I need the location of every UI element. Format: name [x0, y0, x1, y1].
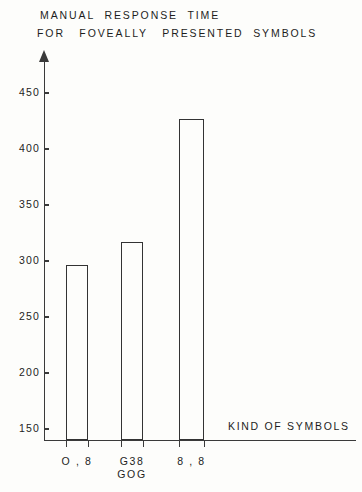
- x-axis-tick: [66, 441, 67, 447]
- y-axis-tick-label-text: 200: [0, 366, 40, 378]
- x-axis-tick: [121, 441, 122, 447]
- y-axis-tick-label: 250: [0, 310, 40, 322]
- x-axis-line: [44, 440, 356, 441]
- symbol-glyph-line: GOG: [92, 468, 172, 481]
- y-axis-tick-label: 450: [0, 86, 40, 98]
- y-axis-tick-label: 400: [0, 142, 40, 154]
- chart-title-line-1: MANUAL RESPONSE TIME: [40, 6, 220, 24]
- y-axis-tick-label: 350: [0, 198, 40, 210]
- bar: [66, 265, 88, 440]
- y-axis-tick: [45, 428, 49, 429]
- y-axis-tick-label: 200: [0, 366, 40, 378]
- response-time-bar-chart: MANUAL RESPONSE TIME FOR FOVEALLY PRESEN…: [0, 0, 362, 492]
- y-axis-tick: [45, 92, 49, 93]
- x-axis-title: KIND OF SYMBOLS: [228, 420, 350, 432]
- y-axis-tick-label-text: 450: [0, 86, 40, 98]
- y-axis-tick: [45, 148, 49, 149]
- y-axis-tick-label-text: 300: [0, 254, 40, 266]
- y-axis-tick-label-text: 350: [0, 198, 40, 210]
- y-axis-tick-label-text: 150: [0, 422, 40, 434]
- x-axis-tick: [204, 441, 205, 447]
- chart-title-line-2: FOR FOVEALLY PRESENTED SYMBOLS: [37, 24, 317, 42]
- chart-title: MANUAL RESPONSE TIME FOR FOVEALLY PRESEN…: [40, 6, 356, 78]
- x-axis-tick: [179, 441, 180, 447]
- y-axis-tick: [45, 260, 49, 261]
- y-axis-line: [44, 60, 45, 441]
- x-axis-category-label: 8 , 8: [152, 455, 232, 468]
- y-axis-tick: [45, 372, 49, 373]
- x-axis-tick: [143, 441, 144, 447]
- bar: [179, 119, 204, 440]
- y-axis-tick: [45, 316, 49, 317]
- y-axis-tick-label-text: 250: [0, 310, 40, 322]
- y-axis-tick: [45, 204, 49, 205]
- y-axis-tick-label: 150: [0, 422, 40, 434]
- bar: [121, 242, 143, 440]
- y-axis-tick-label: 300: [0, 254, 40, 266]
- x-axis-tick: [88, 441, 89, 447]
- symbol-glyph-line: 8 , 8: [152, 455, 232, 468]
- y-axis-tick-label-text: 400: [0, 142, 40, 154]
